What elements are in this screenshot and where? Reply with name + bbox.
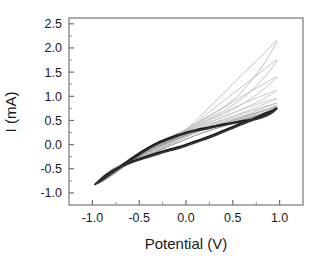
y-tick-label: 1.5 [45,66,62,80]
cv-trace-cycle-1 [95,41,277,185]
x-tick-label: 0.5 [224,211,241,225]
y-axis-tick-labels: 2.52.01.51.00.50.0-0.5-1.0 [40,17,62,200]
y-tick-label: -1.0 [40,186,62,200]
y-tick-label: 0.0 [45,138,62,152]
x-tick-label: 1.0 [271,211,288,225]
y-tick-label: 0.5 [45,114,62,128]
y-axis-title: I (mA) [2,92,19,133]
x-tick-label: 0.0 [177,211,194,225]
y-tick-label: 2.0 [45,41,62,55]
x-tick-label: -0.5 [128,211,150,225]
y-tick-label: 1.0 [45,90,62,104]
y-tick-label: 2.5 [45,17,62,31]
plot-area: -1.0-0.50.00.51.0 2.52.01.51.00.50.0-0.5… [40,17,303,225]
y-axis-ticks [69,24,74,193]
x-axis-tick-labels: -1.0-0.50.00.51.0 [82,211,289,225]
y-tick-label: -0.5 [40,162,62,176]
x-axis-ticks [92,200,279,205]
x-tick-label: -1.0 [82,211,104,225]
cv-chart-figure: -1.0-0.50.00.51.0 2.52.01.51.00.50.0-0.5… [0,0,321,259]
x-axis-title: Potential (V) [145,235,228,252]
cv-trace-group [95,41,277,185]
cv-trace-cycle-final-dark-inner [96,110,276,183]
